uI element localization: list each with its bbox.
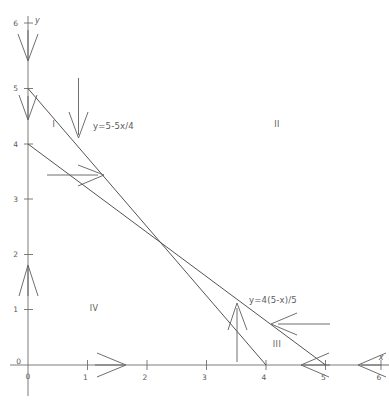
region-direction-arrows — [47, 78, 330, 362]
axis-direction-arrows — [18, 30, 389, 377]
axes-group — [10, 16, 381, 396]
x-tick-label-4: 4 — [262, 373, 267, 382]
x-axis-right-arrow-icon — [95, 353, 126, 377]
y-axis-down-arrow-top-icon — [18, 30, 38, 61]
region-labels-group: I II III IV — [53, 120, 282, 349]
region-down-arrow-line1-icon — [69, 78, 88, 138]
constraint-lines-group — [28, 89, 326, 366]
plot-root: 1 2 3 4 5 6 1 2 3 4 5 6 0 0 y x — [0, 0, 389, 404]
y-axis-label: y — [34, 16, 40, 25]
origin-label-upper: 0 — [16, 357, 21, 366]
region-label-III: III — [273, 340, 281, 349]
x-axis-tick-labels: 1 2 3 4 5 6 — [83, 373, 382, 382]
region-right-arrow-line2-icon — [47, 165, 104, 186]
origin-label-lower: 0 — [26, 372, 31, 381]
y-tick-label-2: 2 — [13, 250, 18, 259]
y-tick-label-3: 3 — [13, 195, 18, 204]
coordinate-plot: 1 2 3 4 5 6 1 2 3 4 5 6 0 0 y x — [0, 0, 389, 404]
x-tick-label-3: 3 — [202, 373, 207, 382]
region-label-IV: IV — [90, 304, 99, 313]
equation-annotations-group: y=5-5x/4 y=4(5-x)/5 — [93, 121, 297, 305]
y-axis-up-arrow-lower-icon — [19, 265, 38, 296]
y-tick-label-4: 4 — [13, 140, 18, 149]
y-axis-tick-labels: 1 2 3 4 5 6 — [13, 19, 18, 315]
x-tick-label-1: 1 — [83, 373, 88, 382]
constraint-line-2 — [28, 144, 326, 365]
x-tick-label-2: 2 — [143, 373, 148, 382]
region-label-I: I — [53, 120, 56, 129]
y-tick-label-5: 5 — [13, 84, 18, 93]
equation-label-line2: y=4(5-x)/5 — [249, 295, 297, 305]
region-label-II: II — [274, 120, 280, 129]
y-axis-down-arrow-upper-icon — [19, 95, 37, 120]
x-axis-left-arrow-outer-icon — [358, 353, 389, 377]
region-left-arrow-line2-icon — [271, 313, 330, 335]
y-tick-label-1: 1 — [13, 305, 18, 314]
equation-label-line1: y=5-5x/4 — [93, 121, 134, 131]
y-tick-label-6: 6 — [13, 19, 18, 28]
